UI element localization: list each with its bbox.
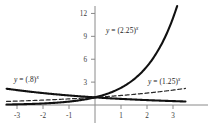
curve-2-25 [7, 6, 178, 104]
annotation-08-eq: = (.8) [17, 75, 36, 84]
annotation-curve-2-25: y = (2.25)x [106, 27, 138, 34]
axes-group [5, 6, 208, 123]
x-tick-label: -2 [40, 112, 46, 120]
annotation-225-eq: = (2.25) [109, 26, 136, 35]
y-ticks-group: 36912 [80, 10, 95, 87]
annotation-curve-1-25: y = (1.25)x [148, 78, 180, 85]
annotation-125-eq: = (1.25) [151, 77, 178, 86]
x-tick-label: -1 [66, 112, 72, 120]
y-tick-label: 6 [83, 56, 87, 64]
curves-group [7, 6, 186, 104]
y-tick-label: 9 [83, 33, 87, 41]
curve-1-25 [7, 88, 186, 101]
y-tick-label: 3 [83, 79, 87, 87]
x-tick-label: 3 [171, 112, 175, 120]
annotation-curve-0-8: y = (.8)x [14, 76, 39, 83]
y-tick-label: 12 [80, 10, 88, 18]
exponential-functions-figure: -3-2-1123 36912 y = (2.25)x y = (.8)x y … [0, 0, 213, 129]
curve-0-8 [7, 89, 186, 102]
x-tick-label: 2 [145, 112, 149, 120]
annotation-08-exponent: x [36, 74, 38, 80]
x-tick-label: 1 [119, 112, 123, 120]
annotation-225-exponent: x [136, 25, 138, 31]
plot-canvas: -3-2-1123 36912 [0, 0, 213, 129]
annotation-125-exponent: x [178, 76, 180, 82]
x-tick-label: -3 [14, 112, 20, 120]
